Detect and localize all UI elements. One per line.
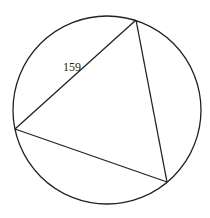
diagram-canvas: 159 [0,0,210,218]
triangle-side-top-bottom-right [136,20,167,182]
triangle-side-left-top [15,20,136,129]
side-length-label: 159 [63,60,81,74]
diagram-svg: 159 [0,0,210,218]
circumscribed-circle [13,16,201,204]
